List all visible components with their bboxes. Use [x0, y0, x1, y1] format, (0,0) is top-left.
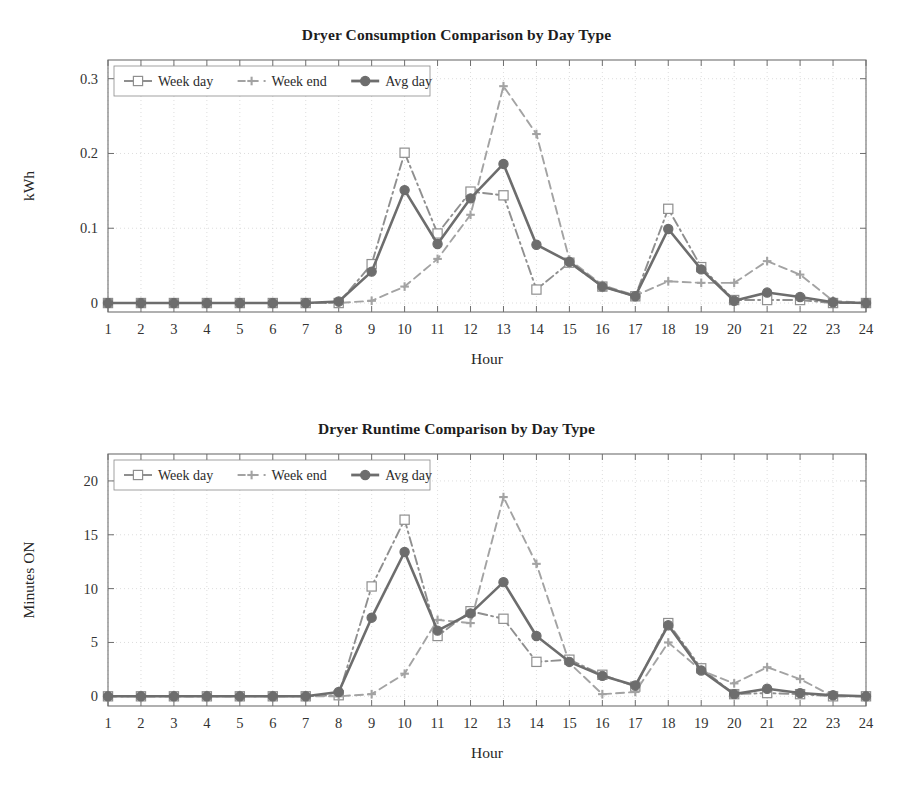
x-tick-label-19: 20	[727, 321, 742, 337]
data-point	[598, 671, 607, 680]
data-point	[861, 692, 870, 701]
series-line	[108, 86, 866, 303]
y-tick-label-1: 0.1	[80, 220, 98, 236]
x-axis-title: Hour	[471, 350, 504, 367]
data-point	[861, 298, 870, 307]
data-point	[169, 692, 178, 701]
chart-panel-runtime: Dryer Runtime Comparison by Day Type 051…	[0, 394, 913, 794]
y-tick-label-1: 5	[91, 634, 98, 650]
x-tick-label-12: 13	[496, 321, 511, 337]
x-tick-label-3: 4	[203, 715, 211, 731]
x-tick-label-5: 6	[269, 321, 276, 337]
data-point	[334, 297, 343, 306]
x-tick-label-10: 11	[431, 321, 445, 337]
legend-marker	[361, 470, 370, 479]
data-point	[202, 298, 211, 307]
data-point	[499, 493, 508, 502]
plot-border	[108, 454, 866, 706]
x-tick-label-20: 21	[760, 715, 775, 731]
data-point	[235, 692, 244, 701]
y-tick-label-0: 0	[91, 295, 98, 311]
data-point	[763, 257, 772, 266]
data-point	[499, 614, 508, 623]
series-line	[108, 520, 866, 697]
legend-marker	[361, 76, 370, 85]
x-tick-label-15: 16	[595, 715, 610, 731]
figure-root: Dryer Consumption Comparison by Day Type…	[0, 0, 913, 794]
data-point	[532, 560, 541, 569]
data-point	[367, 582, 376, 591]
data-point	[795, 688, 804, 697]
series-avg-day	[103, 159, 870, 307]
series-line	[108, 153, 866, 303]
legend-label: Week day	[158, 74, 213, 89]
grid-lines	[108, 454, 866, 706]
series-line	[108, 164, 866, 303]
data-point	[532, 285, 541, 294]
data-point	[466, 609, 475, 618]
data-point	[400, 669, 409, 678]
x-tick-label-20: 21	[760, 321, 775, 337]
data-point	[664, 621, 673, 630]
data-point	[400, 148, 409, 157]
x-tick-label-10: 11	[431, 715, 445, 731]
data-point	[763, 663, 772, 672]
y-tick-label-2: 0.2	[80, 145, 98, 161]
data-point	[103, 298, 112, 307]
x-tick-label-1: 2	[137, 321, 144, 337]
x-tick-label-11: 12	[463, 715, 478, 731]
data-point	[631, 292, 640, 301]
data-point	[103, 692, 112, 701]
data-point	[301, 692, 310, 701]
x-tick-label-4: 5	[236, 715, 243, 731]
x-axis-title: Hour	[471, 744, 504, 761]
data-point	[136, 298, 145, 307]
x-tick-label-14: 15	[562, 715, 577, 731]
x-tick-label-16: 17	[628, 321, 643, 337]
data-point	[466, 194, 475, 203]
x-tick-label-13: 14	[529, 321, 544, 337]
series-week-day	[103, 148, 870, 308]
data-point	[202, 692, 211, 701]
data-point	[367, 296, 376, 305]
data-point	[730, 679, 739, 688]
chart-panel-consumption: Dryer Consumption Comparison by Day Type…	[0, 0, 913, 400]
x-tick-label-23: 24	[859, 321, 874, 337]
x-tick-label-22: 23	[826, 321, 841, 337]
x-tick-label-19: 20	[727, 715, 742, 731]
y-axis-title: kWh	[20, 171, 37, 201]
x-tick-label-21: 22	[793, 321, 808, 337]
data-point	[828, 691, 837, 700]
series-group	[103, 82, 870, 308]
x-tick-label-9: 10	[397, 321, 412, 337]
y-tick-label-2: 10	[84, 581, 99, 597]
x-tick-label-2: 3	[170, 715, 177, 731]
y-tick-label-0: 0	[91, 688, 98, 704]
x-tick-label-7: 8	[335, 715, 342, 731]
chart-title-consumption: Dryer Consumption Comparison by Day Type	[0, 0, 913, 44]
data-point	[367, 613, 376, 622]
series-week-end	[104, 82, 871, 307]
x-tick-label-18: 19	[694, 321, 709, 337]
data-point	[565, 657, 574, 666]
chart-svg-consumption: 00.10.20.3123456789101112131415161718192…	[0, 44, 913, 384]
y-tick-label-3: 0.3	[80, 71, 98, 87]
y-tick-label-4: 20	[84, 473, 99, 489]
data-point	[499, 578, 508, 587]
x-tick-label-7: 8	[335, 321, 342, 337]
chart-svg-runtime: 0510152012345678910111213141516171819202…	[0, 438, 913, 778]
x-tick-label-8: 9	[368, 715, 375, 731]
data-point	[631, 681, 640, 690]
data-point	[169, 298, 178, 307]
data-point	[598, 282, 607, 291]
data-point	[400, 186, 409, 195]
chart-legend[interactable]: Week dayWeek endAvg day	[114, 460, 432, 490]
x-tick-label-9: 10	[397, 715, 412, 731]
x-tick-label-0: 1	[104, 715, 111, 731]
grid-lines	[108, 60, 866, 312]
x-tick-label-17: 18	[661, 715, 676, 731]
chart-legend[interactable]: Week dayWeek endAvg day	[114, 66, 432, 96]
x-tick-label-1: 2	[137, 715, 144, 731]
data-point	[763, 288, 772, 297]
data-point	[268, 692, 277, 701]
